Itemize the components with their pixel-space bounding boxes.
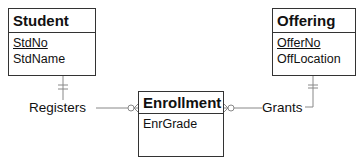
relationship-label-registers[interactable]: Registers — [29, 100, 86, 116]
entity-title: Student — [9, 9, 95, 33]
entity-title: Enrollment — [139, 92, 223, 114]
relationship-label-grants[interactable]: Grants — [262, 100, 303, 116]
entity-title: Offering — [273, 9, 355, 33]
entity-student[interactable]: Student StdNo StdName — [8, 8, 96, 76]
attribute: OffLocation — [277, 51, 351, 67]
primary-key-attribute: StdNo — [13, 35, 91, 51]
entity-enrollment[interactable]: Enrollment EnrGrade — [138, 91, 224, 157]
primary-key-attribute: OfferNo — [277, 35, 351, 51]
attribute: StdName — [13, 51, 91, 67]
attribute: EnrGrade — [143, 116, 219, 132]
entity-offering[interactable]: Offering OfferNo OffLocation — [272, 8, 356, 76]
